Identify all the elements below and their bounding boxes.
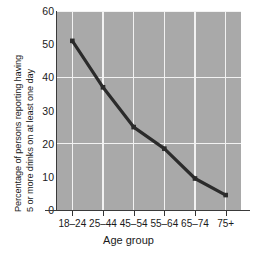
x-tick-mark: [72, 211, 73, 216]
x-tick-mark: [226, 211, 227, 216]
x-tick-label: 75+: [217, 218, 234, 229]
x-tick-label: 25–44: [89, 218, 117, 229]
x-tick-mark: [164, 211, 165, 216]
data-point-marker: [223, 193, 228, 198]
data-point-marker: [101, 85, 106, 90]
data-polyline: [72, 41, 225, 195]
x-tick-label: 55–64: [150, 218, 178, 229]
x-tick-label: 45–54: [120, 218, 148, 229]
data-line-series: [57, 11, 241, 210]
y-axis-spine: [56, 11, 57, 211]
y-tick-label: 50: [30, 39, 54, 49]
x-tick-label: 18–24: [58, 218, 86, 229]
x-tick-label: 65–74: [181, 218, 209, 229]
y-axis-title: Percentage of persons reporting having 5…: [0, 0, 32, 216]
plot-area: [57, 11, 241, 210]
y-tick-label: 30: [30, 106, 54, 116]
chart-figure: Percentage of persons reporting having 5…: [0, 0, 257, 254]
y-axis-ticks: 0102030405060: [30, 0, 54, 254]
x-axis-spine: [45, 210, 250, 211]
y-axis-title-line-1: Percentage of persons reporting having: [13, 55, 23, 212]
x-axis-title: Age group: [0, 234, 257, 246]
x-tick-mark: [103, 211, 104, 216]
data-point-marker: [131, 125, 136, 130]
data-point-marker: [193, 176, 198, 181]
data-point-marker: [162, 146, 167, 151]
y-tick-label: 20: [30, 139, 54, 149]
y-tick-label: 10: [30, 172, 54, 182]
x-tick-mark: [134, 211, 135, 216]
data-point-marker: [70, 39, 75, 44]
x-tick-mark: [195, 211, 196, 216]
y-tick-label: 60: [30, 6, 54, 16]
y-tick-label: 40: [30, 72, 54, 82]
